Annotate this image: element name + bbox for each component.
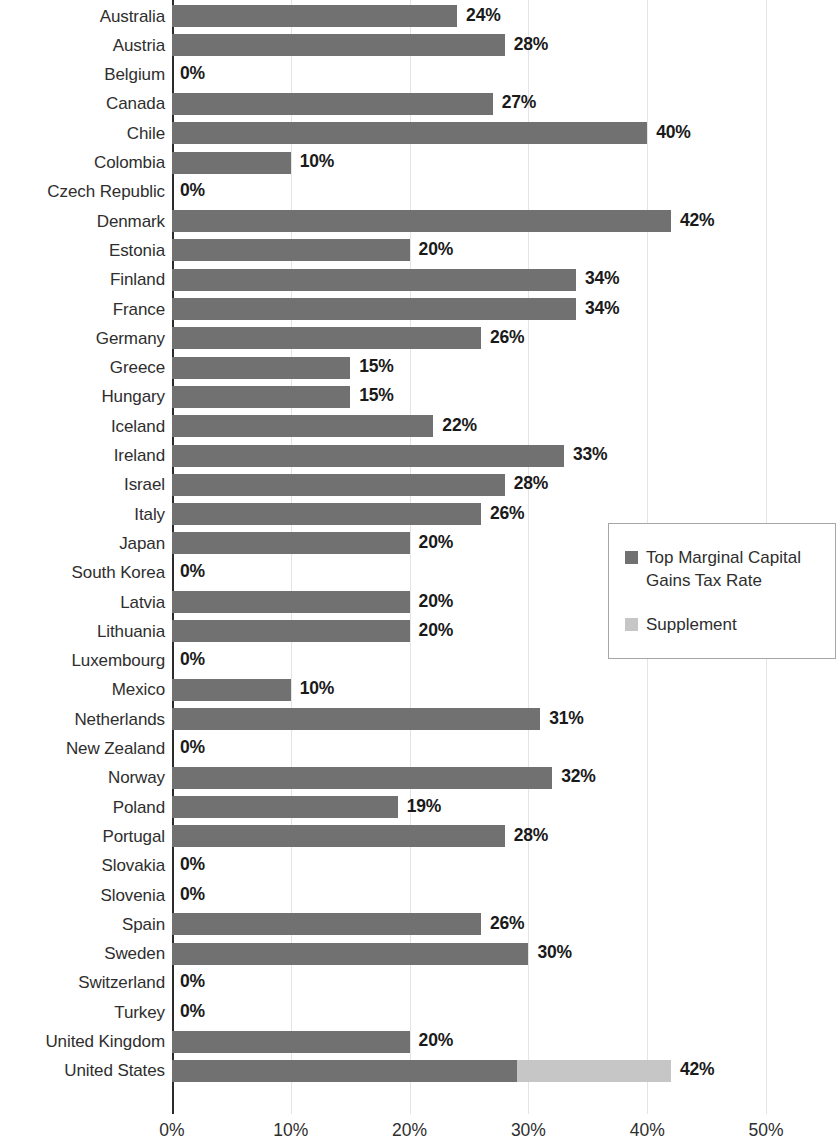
- bar[interactable]: [172, 620, 410, 642]
- bar-value-label: 26%: [490, 502, 524, 524]
- bar[interactable]: [172, 5, 457, 27]
- value-axis-tick-label: 20%: [392, 1116, 427, 1144]
- legend-item-supplement[interactable]: Supplement: [625, 613, 737, 636]
- bar[interactable]: [172, 298, 576, 320]
- bar[interactable]: [172, 796, 398, 818]
- bar[interactable]: [172, 679, 291, 701]
- bar-row: 33%: [172, 441, 836, 470]
- bar-row: 24%: [172, 2, 836, 31]
- bar-row: 42%: [172, 1056, 836, 1085]
- bar[interactable]: [172, 93, 493, 115]
- value-axis-tick-label: 40%: [630, 1116, 665, 1144]
- category-label: Sweden: [0, 939, 165, 968]
- bar[interactable]: [172, 503, 481, 525]
- bar[interactable]: [172, 210, 671, 232]
- bar-segment-main: [172, 591, 410, 613]
- bar-segment-main: [172, 210, 671, 232]
- category-label: Australia: [0, 2, 165, 31]
- bar-value-label: 0%: [180, 970, 205, 992]
- category-label: Colombia: [0, 148, 165, 177]
- category-label: Switzerland: [0, 968, 165, 997]
- bar[interactable]: [172, 34, 505, 56]
- value-axis-tick-label: 10%: [273, 1116, 308, 1144]
- bar-row: 22%: [172, 412, 836, 441]
- bar-row: 0%: [172, 60, 836, 89]
- bar[interactable]: [172, 152, 291, 174]
- bar-segment-main: [172, 34, 505, 56]
- legend-swatch-icon-supplement: [625, 618, 638, 631]
- bar[interactable]: [172, 532, 410, 554]
- bar[interactable]: [172, 445, 564, 467]
- bar-value-label: 30%: [537, 941, 571, 963]
- bar[interactable]: [172, 122, 647, 144]
- bar[interactable]: [172, 913, 481, 935]
- category-label: Lithuania: [0, 617, 165, 646]
- bar[interactable]: [172, 239, 410, 261]
- bar-value-label: 20%: [419, 1029, 453, 1051]
- category-label: Canada: [0, 89, 165, 118]
- bar-value-label: 28%: [514, 33, 548, 55]
- bar-segment-main: [172, 239, 410, 261]
- bar-segment-supplement: [517, 1060, 671, 1082]
- category-label: Norway: [0, 763, 165, 792]
- legend-item-top-marginal-capital-gains-tax-rate[interactable]: Top Marginal Capital Gains Tax Rate: [625, 546, 826, 592]
- bar[interactable]: [172, 474, 505, 496]
- value-axis-tick-label: 0%: [159, 1116, 184, 1144]
- bar[interactable]: [172, 269, 576, 291]
- bar-value-label: 0%: [180, 62, 205, 84]
- bar-row: 0%: [172, 734, 836, 763]
- bar[interactable]: [172, 415, 433, 437]
- bar[interactable]: [172, 591, 410, 613]
- category-label: Japan: [0, 529, 165, 558]
- category-label: Spain: [0, 910, 165, 939]
- legend-swatch-icon-main: [625, 551, 638, 564]
- bar-value-label: 0%: [180, 648, 205, 670]
- bar-value-label: 0%: [180, 560, 205, 582]
- bar[interactable]: [172, 1031, 410, 1053]
- bar-row: 10%: [172, 148, 836, 177]
- bar-row: 26%: [172, 324, 836, 353]
- category-label: Denmark: [0, 207, 165, 236]
- bar-row: 32%: [172, 763, 836, 792]
- category-label: Finland: [0, 265, 165, 294]
- bar[interactable]: [172, 357, 350, 379]
- bar-row: 28%: [172, 31, 836, 60]
- bar[interactable]: [172, 767, 552, 789]
- bar-value-label: 42%: [680, 1058, 714, 1080]
- bar-row: 40%: [172, 119, 836, 148]
- category-label: Ireland: [0, 441, 165, 470]
- category-label: United Kingdom: [0, 1027, 165, 1056]
- category-label: Austria: [0, 31, 165, 60]
- bar-row: 30%: [172, 939, 836, 968]
- bar[interactable]: [172, 386, 350, 408]
- category-label: South Korea: [0, 558, 165, 587]
- category-label: Turkey: [0, 998, 165, 1027]
- bar-segment-main: [172, 5, 457, 27]
- bar-segment-main: [172, 327, 481, 349]
- bar-row: 20%: [172, 236, 836, 265]
- bar[interactable]: [172, 943, 528, 965]
- bar-segment-main: [172, 913, 481, 935]
- bar[interactable]: [172, 327, 481, 349]
- bar-segment-main: [172, 1031, 410, 1053]
- bar-segment-main: [172, 620, 410, 642]
- category-label: Slovenia: [0, 881, 165, 910]
- category-label: United States: [0, 1056, 165, 1085]
- bar-value-label: 0%: [180, 1000, 205, 1022]
- bar-segment-main: [172, 1060, 517, 1082]
- bar-value-label: 26%: [490, 326, 524, 348]
- category-label: Germany: [0, 324, 165, 353]
- bar-row: 15%: [172, 382, 836, 411]
- bar-value-label: 26%: [490, 912, 524, 934]
- bar[interactable]: [172, 825, 505, 847]
- bar-segment-main: [172, 474, 505, 496]
- bar-segment-main: [172, 767, 552, 789]
- bar[interactable]: [172, 1060, 671, 1082]
- bar-segment-main: [172, 503, 481, 525]
- bar[interactable]: [172, 708, 540, 730]
- bar-value-label: 0%: [180, 736, 205, 758]
- bar-value-label: 22%: [442, 414, 476, 436]
- category-label: Czech Republic: [0, 177, 165, 206]
- category-axis-labels: AustraliaAustriaBelgiumCanadaChileColomb…: [0, 0, 165, 1114]
- bar-value-label: 15%: [359, 384, 393, 406]
